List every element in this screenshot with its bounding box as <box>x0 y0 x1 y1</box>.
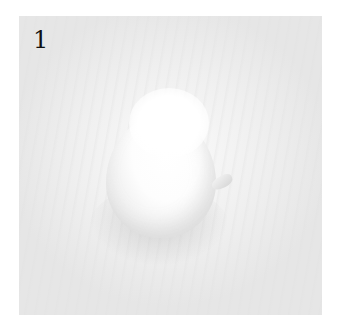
photo: 1 <box>19 16 322 315</box>
clay-blob-highlight <box>129 88 209 158</box>
figure-label: 1 <box>33 28 48 52</box>
